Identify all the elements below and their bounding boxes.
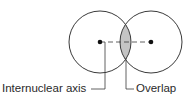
overlap-label: Overlap <box>136 83 176 95</box>
axis-leader-line <box>91 42 105 89</box>
left-nucleus-dot <box>98 40 103 45</box>
right-nucleus-dot <box>149 40 154 45</box>
overlap-leader-line <box>126 58 134 89</box>
internuclear-axis-label: Internuclear axis <box>2 83 86 95</box>
